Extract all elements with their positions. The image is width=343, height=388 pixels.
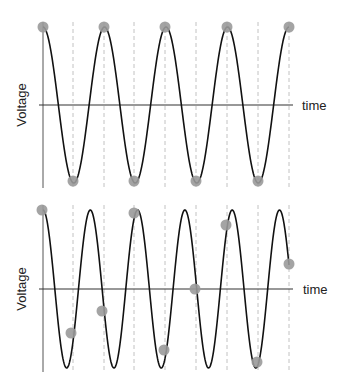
sample-point (284, 259, 295, 270)
y-axis-label: Voltage (14, 83, 29, 126)
sample-point (38, 22, 49, 33)
y-axis-label: Voltage (14, 267, 29, 310)
x-axis-label: time (302, 98, 327, 113)
sample-point (68, 176, 79, 187)
sample-point (253, 176, 264, 187)
x-axis-label: time (303, 282, 328, 297)
sample-point (97, 306, 108, 317)
sample-point (129, 208, 140, 219)
sample-points (38, 22, 295, 187)
sample-points (37, 205, 295, 368)
sample-point (99, 22, 110, 33)
sample-point (37, 205, 48, 216)
sample-point (129, 176, 140, 187)
bottom-plot: Voltage time (14, 205, 328, 373)
sampling-diagram: Voltage time Voltage time (0, 0, 343, 388)
sample-point (190, 284, 201, 295)
sample-point (191, 176, 202, 187)
sample-point (221, 220, 232, 231)
sample-point (160, 22, 171, 33)
top-plot: Voltage time (14, 22, 327, 189)
sample-point (222, 22, 233, 33)
sample-point (66, 328, 77, 339)
sample-point (252, 357, 263, 368)
sample-point (159, 345, 170, 356)
sample-point (284, 22, 295, 33)
